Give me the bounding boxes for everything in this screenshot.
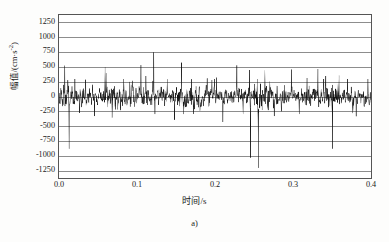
y-tick-label: 750 (27, 47, 55, 55)
y-axis-title: 幅值/(cm·s-2) (10, 20, 19, 112)
figure-panel: 幅值/(cm·s-2) 125010007505002500-250-500-7… (0, 0, 389, 242)
x-tick-label: 0.0 (39, 181, 79, 189)
y-tick-label: 0 (27, 92, 55, 100)
y-tick-label: 1000 (27, 33, 55, 41)
y-tick-label: -250 (27, 107, 55, 115)
y-tick-label: -1000 (27, 151, 55, 159)
y-axis-title-exponent: -2 (7, 45, 14, 50)
y-tick-label: -1250 (27, 166, 55, 174)
y-tick-label: -500 (27, 122, 55, 130)
x-tick-label: 0.2 (195, 181, 235, 189)
acceleration-time-history-trace (59, 15, 371, 178)
y-tick-label: 500 (27, 62, 55, 70)
y-tick-label: -750 (27, 136, 55, 144)
x-tick-label: 0.3 (273, 181, 313, 189)
y-axis-title-tail: ) (9, 42, 19, 45)
x-axis-title: 时间/s (0, 197, 389, 206)
x-tick-label: 0.1 (117, 181, 157, 189)
y-axis-title-text: 幅值/(cm·s (9, 51, 19, 91)
y-tick-label: 1250 (27, 18, 55, 26)
figure-caption: a) (0, 219, 389, 228)
y-tick-label: 250 (27, 77, 55, 85)
plot-area (58, 14, 372, 179)
x-tick-label: 0.4 (351, 181, 389, 189)
x-axis-tick-labels: 0.00.10.20.30.4 (0, 181, 389, 195)
